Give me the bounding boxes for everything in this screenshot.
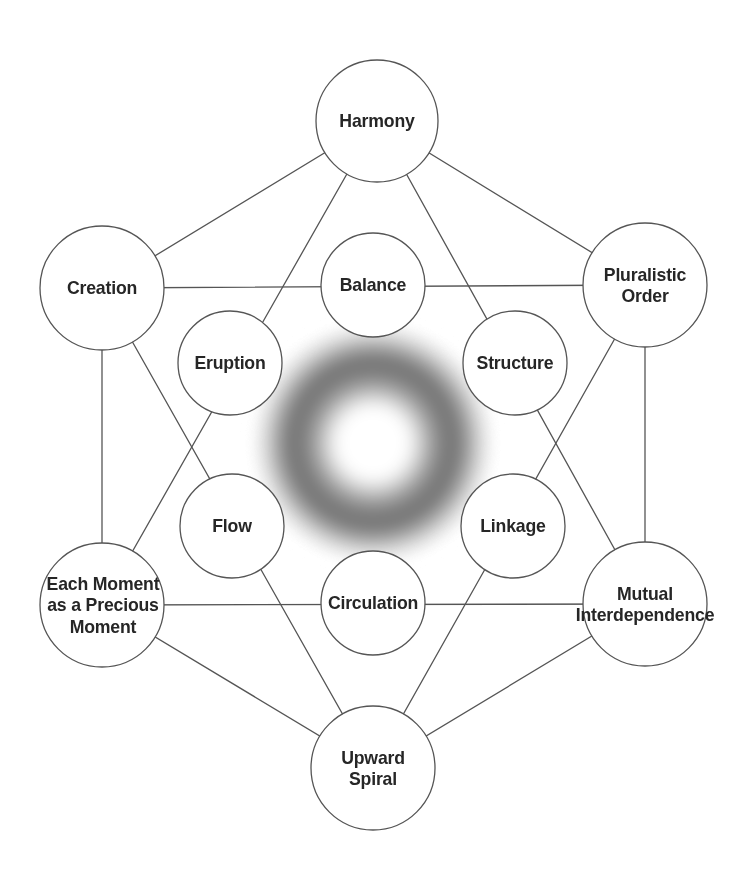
node-circle-linkage [461, 474, 565, 578]
node-circle-harmony [316, 60, 438, 182]
diagram-svg [0, 0, 743, 873]
center-glow [255, 325, 491, 561]
node-circle-structure [463, 311, 567, 415]
node-circle-creation [40, 226, 164, 350]
diagram-canvas: Harmony Pluralistic Order Mutual Interde… [0, 0, 743, 873]
node-circle-circulation [321, 551, 425, 655]
node-circle-balance [321, 233, 425, 337]
node-circle-eruption [178, 311, 282, 415]
node-circle-each [40, 543, 164, 667]
node-circle-mutual [583, 542, 707, 666]
node-circle-pluralistic [583, 223, 707, 347]
node-circle-upward [311, 706, 435, 830]
node-circle-flow [180, 474, 284, 578]
